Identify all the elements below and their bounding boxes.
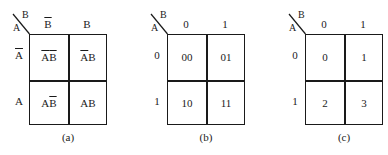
cell-term: 1 <box>361 51 367 63</box>
cell-term: A <box>41 51 49 63</box>
column-header-1: B <box>68 18 106 30</box>
row-variable-label: A <box>13 22 20 33</box>
column-header-0: 0 <box>305 18 343 30</box>
kmap-cell-10: 2 <box>306 81 344 125</box>
row-header-1: 1 <box>288 95 302 107</box>
figure-caption: (b) <box>167 131 245 143</box>
column-header-0: 0 <box>167 18 205 30</box>
kmap-cell-00: 0 <box>306 35 344 79</box>
kmap-cell-11: AB <box>69 81 107 125</box>
column-variable-label: B <box>22 9 29 20</box>
cell-term: 10 <box>182 97 193 109</box>
row-header-1: 1 <box>150 95 164 107</box>
figure-caption: (a) <box>29 131 107 143</box>
cell-term: 3 <box>361 97 367 109</box>
cell-term: B <box>88 51 95 63</box>
kmap-cell-10: AB <box>30 81 68 125</box>
column-variable-label: B <box>298 9 305 20</box>
column-header-1: 1 <box>206 18 244 30</box>
row-header-0: 0 <box>150 49 164 61</box>
kmap-cell-11: 11 <box>207 81 245 125</box>
karnaugh-map-a: BABBAAABABABAB(a) <box>0 0 130 155</box>
cell-term: A <box>80 97 88 109</box>
column-header-0: B <box>29 18 67 30</box>
cell-term: A <box>80 51 88 63</box>
row-header-0: 0 <box>288 49 302 61</box>
kmap-grid: ABABABAB <box>29 34 107 125</box>
column-header-1: 1 <box>344 18 382 30</box>
kmap-grid: 0123 <box>305 34 383 125</box>
cell-term: B <box>88 97 95 109</box>
kmap-cell-10: 10 <box>168 81 206 125</box>
cell-term: B <box>49 97 56 109</box>
cell-term: A <box>41 97 49 109</box>
cell-term: 2 <box>322 97 328 109</box>
karnaugh-map-b: BA010100011011(b) <box>138 0 268 155</box>
cell-term: 01 <box>221 51 232 63</box>
row-variable-label: A <box>151 22 158 33</box>
karnaugh-map-c: BA01010123(c) <box>276 0 388 155</box>
kmap-cell-01: 01 <box>207 35 245 79</box>
column-variable-label: B <box>160 9 167 20</box>
kmap-cell-00: AB <box>30 35 68 79</box>
cell-term: 00 <box>182 51 193 63</box>
kmap-cell-01: 1 <box>345 35 383 79</box>
row-variable-label: A <box>289 22 296 33</box>
kmap-cell-11: 3 <box>345 81 383 125</box>
kmap-cell-00: 00 <box>168 35 206 79</box>
row-header-1: A <box>12 95 26 107</box>
cell-term: 11 <box>221 97 232 109</box>
kmap-grid: 00011011 <box>167 34 245 125</box>
row-header-0: A <box>12 49 26 61</box>
figure-caption: (c) <box>305 131 383 143</box>
kmap-cell-01: AB <box>69 35 107 79</box>
cell-term: 0 <box>322 51 328 63</box>
cell-term: B <box>49 51 56 63</box>
